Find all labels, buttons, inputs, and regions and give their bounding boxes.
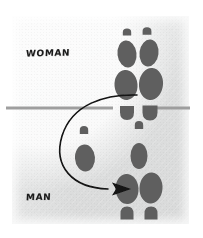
label-man: MAN bbox=[26, 192, 52, 203]
label-woman: WOMAN bbox=[26, 48, 71, 59]
figure-canvas: WOMAN MAN bbox=[0, 0, 203, 238]
